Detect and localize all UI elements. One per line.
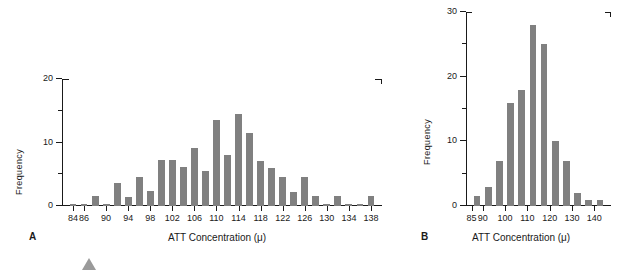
histogram-bar xyxy=(246,133,253,206)
x-tick-major xyxy=(106,206,107,211)
x-tick-major xyxy=(527,206,528,211)
x-tick-major xyxy=(349,206,350,211)
y-axis-line xyxy=(62,79,63,206)
x-tick-major xyxy=(327,206,328,211)
histogram-bar xyxy=(357,204,364,206)
x-tick-major xyxy=(505,206,506,211)
y-tick-major xyxy=(56,78,62,79)
y-tick-minor xyxy=(462,108,466,109)
x-tick-major xyxy=(371,206,372,211)
panel-letter-a: A xyxy=(29,231,36,242)
histogram-bar xyxy=(563,161,570,206)
histogram-bar xyxy=(301,177,308,206)
histogram-bar xyxy=(92,196,99,206)
x-tick-major xyxy=(73,206,74,211)
y-tick-label: 20 xyxy=(43,74,53,83)
y-tick-label: 0 xyxy=(452,201,457,210)
x-tick-label: 140 xyxy=(580,214,608,223)
histogram-bar xyxy=(552,141,559,206)
x-tick-major xyxy=(194,206,195,211)
x-tick-major xyxy=(550,206,551,211)
axis-bracket-right-stem xyxy=(610,12,611,17)
x-tick-major xyxy=(84,206,85,211)
y-tick-major xyxy=(460,205,466,206)
histogram-bar xyxy=(574,193,581,206)
histogram-bar xyxy=(518,90,525,206)
panel-letter-b: B xyxy=(421,231,428,242)
histogram-bar xyxy=(368,196,375,206)
panel-a: Frequency 010208486909498102106110114118… xyxy=(0,0,400,272)
histogram-bar xyxy=(279,177,286,206)
y-tick-major xyxy=(460,11,466,12)
histogram-bar xyxy=(213,120,220,206)
panel-b: Frequency 01020308590100110120130140 ATT… xyxy=(400,0,633,272)
histogram-bar xyxy=(70,204,77,206)
y-tick-major xyxy=(460,140,466,141)
x-tick-major xyxy=(483,206,484,211)
x-tick-major xyxy=(261,206,262,211)
axis-bracket-right-stem xyxy=(381,79,382,84)
histogram-bar xyxy=(345,204,352,206)
x-tick-major xyxy=(305,206,306,211)
histogram-bar xyxy=(125,197,132,206)
histogram-bar xyxy=(169,160,176,206)
y-tick-label: 10 xyxy=(43,138,53,147)
histogram-bar xyxy=(158,160,165,206)
y-tick-label: 30 xyxy=(447,7,457,16)
x-tick-label: 138 xyxy=(357,214,385,223)
axis-bracket-top-left xyxy=(466,12,472,13)
x-axis-title-b: ATT Concentration (μ) xyxy=(472,232,570,243)
histogram-bar xyxy=(147,191,154,206)
histogram-bar xyxy=(530,25,537,206)
y-axis-title-b: Frequency xyxy=(422,119,432,165)
histogram-bar xyxy=(136,177,143,206)
histogram-bar xyxy=(202,171,209,206)
y-axis-title-a: Frequency xyxy=(14,149,24,195)
y-tick-minor xyxy=(462,173,466,174)
histogram-bar xyxy=(103,204,110,206)
y-tick-major xyxy=(56,142,62,143)
histogram-bar xyxy=(485,187,492,206)
histogram-bar xyxy=(323,204,330,206)
x-tick-major xyxy=(150,206,151,211)
histogram-bar xyxy=(541,44,548,206)
histogram-bar xyxy=(180,167,187,206)
y-tick-label: 10 xyxy=(447,136,457,145)
histogram-bar xyxy=(507,103,514,206)
histogram-bar xyxy=(268,168,275,206)
histogram-bar xyxy=(191,148,198,206)
histogram-bar xyxy=(334,196,341,206)
histogram-bar xyxy=(496,161,503,206)
y-tick-label: 20 xyxy=(447,72,457,81)
histogram-a: 0102084869094981021061101141181221261301… xyxy=(62,79,382,206)
histogram-bar xyxy=(114,183,121,206)
histogram-bar xyxy=(597,200,604,206)
x-tick-major xyxy=(239,206,240,211)
x-tick-major xyxy=(594,206,595,211)
pointer-triangle-marker xyxy=(82,258,96,270)
y-tick-minor xyxy=(58,110,62,111)
x-tick-major xyxy=(572,206,573,211)
x-tick-major xyxy=(283,206,284,211)
histogram-bar xyxy=(224,155,231,206)
x-axis-title-a: ATT Concentration (μ) xyxy=(168,232,266,243)
axis-bracket-top-left xyxy=(62,79,69,80)
histogram-bar xyxy=(257,161,264,206)
histogram-bar xyxy=(585,200,592,206)
histogram-bar xyxy=(474,196,481,206)
x-tick-major xyxy=(128,206,129,211)
y-tick-minor xyxy=(58,173,62,174)
histogram-bar xyxy=(290,192,297,206)
x-tick-major xyxy=(472,206,473,211)
y-tick-label: 0 xyxy=(48,201,53,210)
y-tick-major xyxy=(56,205,62,206)
histogram-bar xyxy=(312,196,319,206)
x-tick-major xyxy=(172,206,173,211)
y-tick-major xyxy=(460,76,466,77)
x-tick-major xyxy=(216,206,217,211)
histogram-bar xyxy=(235,114,242,206)
histogram-b: 01020308590100110120130140 xyxy=(466,12,611,206)
y-axis-line xyxy=(466,12,467,206)
y-tick-minor xyxy=(462,43,466,44)
histogram-bar xyxy=(81,204,88,206)
